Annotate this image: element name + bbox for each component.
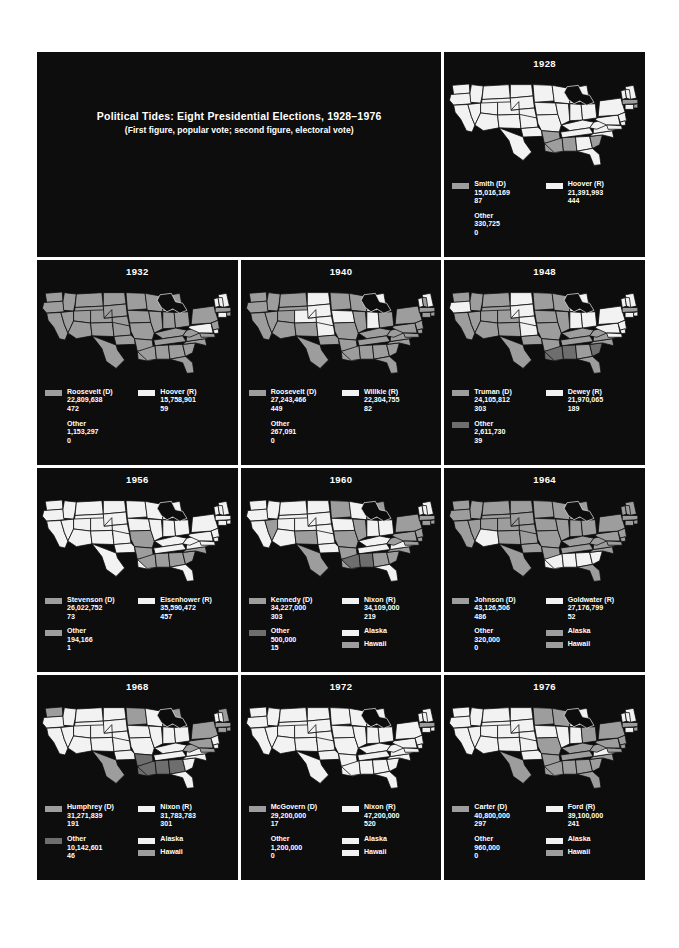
legend-text: Johnson (D)43,126,506486 [474,596,515,622]
state-fl [170,356,194,373]
legend-row-primary: Smith (D)15,016,16987Hoover (R)21,391,99… [452,180,639,206]
election-panel-1932: 1932Roosevelt (D)22,809,638472Hoover (R)… [37,260,238,465]
legend-swatch [546,183,563,189]
state-nm [294,530,317,544]
electoral-vote: 301 [160,820,196,829]
state-al [155,553,170,567]
popular-vote: 320,000 [474,636,500,645]
election-panel-1928: 1928Smith (D)15,016,16987Hoover (R)21,39… [444,52,645,257]
state-ok [114,335,135,345]
legend-text: Other1,200,0000 [271,835,303,861]
candidate-name: Other [474,212,500,221]
state-id [63,708,76,726]
popular-vote: 21,970,065 [568,396,604,405]
panel-year: 1948 [444,266,645,277]
panel-grid: Political Tides: Eight Presidential Elec… [37,52,645,880]
map-container [448,280,641,386]
state-ma [623,307,639,312]
electoral-vote: 0 [474,852,500,861]
election-panel-1968: 1968Humphrey (D)31,271,839191Nixon (R)31… [37,675,238,880]
state-oh [174,519,190,535]
state-md [200,748,216,752]
legend-row-other: Other267,0910 [249,420,436,446]
popular-vote: 26,022,752 [67,604,115,613]
state-oh [581,519,597,535]
legend-text: Roosevelt (D)22,809,638472 [67,388,113,414]
state-or [246,509,268,521]
candidate-name: Other [67,835,103,844]
state-mt [482,708,510,723]
state-in [163,312,176,329]
legend-swatch [138,850,155,856]
state-al [155,345,170,359]
region-label: Alaska [568,627,591,636]
region-label: Alaska [364,627,387,636]
legend-democrat: Roosevelt (D)22,809,638472 [45,388,138,414]
legend-swatch [546,598,563,604]
electoral-vote: 0 [474,644,500,653]
state-id [63,500,76,518]
state-oh [581,104,597,120]
state-md [607,333,623,337]
state-mn [533,85,554,103]
state-ok [114,543,135,553]
legend-swatch [546,850,563,856]
state-id [470,292,483,310]
state-ct [625,104,634,109]
state-oh [174,727,190,743]
us-map [41,695,234,801]
electoral-vote: 0 [271,852,303,861]
legend-republican: Nixon (R)31,783,783301 [138,803,231,829]
popular-vote: 39,100,000 [568,812,604,821]
state-ct [218,728,226,733]
state-ok [318,750,339,760]
legend-text: Other320,0000 [474,627,500,653]
state-oh [581,727,597,743]
legend-hawaii: Hawaii [138,848,231,857]
panel-legend: Johnson (D)43,126,506486Goldwater (R)27,… [452,596,639,669]
electoral-vote: 189 [568,405,604,414]
panel-legend: Truman (D)24,105,812303Dewey (R)21,970,0… [452,388,639,461]
legend-swatch [138,806,155,812]
legend-other: Other194,1661 [45,627,138,653]
legend-republican: Dewey (R)21,970,065189 [546,388,639,414]
candidate-name: Stevenson (D) [67,596,115,605]
popular-vote: 500,000 [271,636,297,645]
electoral-vote: 303 [474,405,511,414]
state-or [42,716,64,728]
state-nm [498,738,521,752]
legend-republican: Willkie (R)22,304,75582 [342,388,435,414]
title-panel: Political Tides: Eight Presidential Elec… [37,52,441,257]
legend-democrat: Humphrey (D)31,271,839191 [45,803,138,829]
map-container [448,695,641,801]
legend-swatch [452,838,469,844]
election-panel-1960: 1960Kennedy (D)34,227,000303Nixon (R)34,… [241,468,442,673]
legend-swatch [45,630,62,636]
legend-states-stack: AlaskaHawaii [138,835,231,861]
infographic-page: Political Tides: Eight Presidential Elec… [0,0,679,948]
legend-republican: Hoover (R)15,758,90159 [138,388,231,414]
candidate-name: Roosevelt (D) [67,388,113,397]
legend-states-stack: AlaskaHawaii [342,835,435,861]
popular-vote: 31,271,839 [67,812,114,821]
popular-vote: 2,611,730 [474,428,505,437]
region-label: Alaska [568,835,591,844]
legend-row-other: Other960,0000AlaskaHawaii [452,835,639,861]
candidate-name: Kennedy (D) [271,596,313,605]
legend-swatch [342,642,359,648]
legend-row-other: Other1,153,2970 [45,420,232,446]
state-ia [127,726,150,739]
legend-other: Other330,7250 [452,212,545,238]
legend-alaska: Alaska [342,835,435,844]
legend-text: Other194,1661 [67,627,93,653]
legend-swatch [249,806,266,812]
state-ct [625,728,634,733]
state-al [562,553,577,567]
candidate-name: Dewey (R) [568,388,604,397]
region-label: Hawaii [364,640,386,649]
state-nm [91,322,114,336]
state-or [42,301,64,313]
panel-legend: Humphrey (D)31,271,839191Nixon (R)31,783… [45,803,232,876]
legend-alaska: Alaska [138,835,231,844]
state-or [246,716,268,728]
